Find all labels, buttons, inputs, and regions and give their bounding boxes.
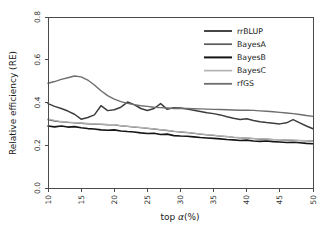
relative-efficiency-line-chart: 101520253035404550 0.00.20.40.60.8 rrBLU…: [0, 0, 335, 233]
x-tick-label: 25: [143, 195, 152, 205]
series-layer: [48, 76, 313, 144]
x-axis: 101520253035404550: [44, 188, 318, 205]
legend-label-bayesc: BayesC: [237, 66, 267, 75]
legend-label-bayesa: BayesA: [237, 40, 267, 49]
x-tick-label: 35: [209, 195, 218, 205]
y-axis: 0.00.20.40.60.8: [33, 11, 48, 194]
x-tick-label: 20: [110, 195, 119, 205]
x-tick-label: 30: [176, 195, 185, 205]
x-tick-label: 45: [275, 195, 284, 205]
series-line-rrblup: [48, 102, 313, 129]
legend: rrBLUPBayesABayesBBayesCrfGS: [204, 27, 267, 89]
y-tick-label: 0.4: [33, 96, 42, 108]
series-line-bayesb: [48, 126, 313, 144]
y-tick-label: 0.2: [33, 139, 42, 151]
x-tick-label: 15: [77, 195, 86, 205]
series-line-bayesc: [48, 119, 313, 141]
y-tick-label: 0.0: [33, 182, 42, 194]
legend-label-rrblup: rrBLUP: [237, 27, 263, 36]
legend-label-bayesb: BayesB: [237, 53, 266, 62]
y-axis-title: Relative efficiency (RE): [8, 51, 18, 155]
y-tick-label: 0.8: [33, 11, 42, 23]
x-tick-label: 50: [309, 195, 318, 205]
legend-label-rfgs: rfGS: [237, 79, 254, 88]
series-line-rfgs: [48, 76, 313, 116]
chart-figure: 101520253035404550 0.00.20.40.60.8 rrBLU…: [0, 0, 335, 233]
x-tick-label: 10: [44, 195, 53, 205]
plot-frame: [48, 17, 313, 188]
x-axis-title: top α(%): [160, 212, 199, 222]
y-tick-label: 0.6: [33, 54, 42, 66]
x-tick-label: 40: [242, 195, 251, 205]
